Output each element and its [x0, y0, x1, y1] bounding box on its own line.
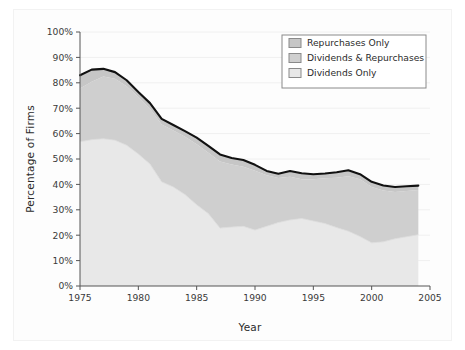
y-tick-label: 80% — [53, 77, 74, 88]
y-tick-label: 0% — [58, 280, 73, 291]
chart-legend[interactable]: Repurchases OnlyDividends & RepurchasesD… — [282, 35, 426, 88]
y-tick-label: 30% — [53, 204, 74, 215]
y-tick-label: 100% — [47, 26, 74, 37]
stacked-areas — [80, 69, 418, 286]
x-axis-ticks: 1975198019851990199520002005 — [68, 286, 442, 303]
x-tick-label: 1995 — [302, 292, 326, 303]
legend-swatch-1[interactable] — [289, 54, 301, 63]
y-tick-label: 40% — [53, 179, 74, 190]
area-chart: 1975198019851990199520002005 0%10%20%30%… — [0, 0, 465, 350]
x-tick-label: 1975 — [68, 292, 92, 303]
x-axis-title: Year — [237, 321, 262, 333]
x-tick-label: 2000 — [360, 292, 384, 303]
y-tick-label: 50% — [53, 153, 74, 164]
legend-label-2[interactable]: Dividends Only — [307, 67, 377, 78]
x-tick-label: 1990 — [243, 292, 267, 303]
x-tick-label: 1980 — [127, 292, 151, 303]
x-tick-label: 2005 — [418, 292, 442, 303]
y-tick-label: 70% — [53, 103, 74, 114]
legend-swatch-0[interactable] — [289, 39, 301, 48]
y-axis-ticks: 0%10%20%30%40%50%60%70%80%90%100% — [47, 26, 80, 291]
y-tick-label: 10% — [53, 255, 74, 266]
chart-figure: 1975198019851990199520002005 0%10%20%30%… — [0, 0, 465, 350]
legend-swatch-2[interactable] — [289, 69, 301, 78]
y-tick-label: 60% — [53, 128, 74, 139]
y-axis-title: Percentage of Firms — [24, 105, 36, 213]
x-tick-label: 1985 — [185, 292, 209, 303]
legend-label-1[interactable]: Dividends & Repurchases — [307, 52, 424, 63]
legend-label-0[interactable]: Repurchases Only — [307, 37, 390, 48]
y-tick-label: 20% — [53, 230, 74, 241]
y-tick-label: 90% — [53, 52, 74, 63]
